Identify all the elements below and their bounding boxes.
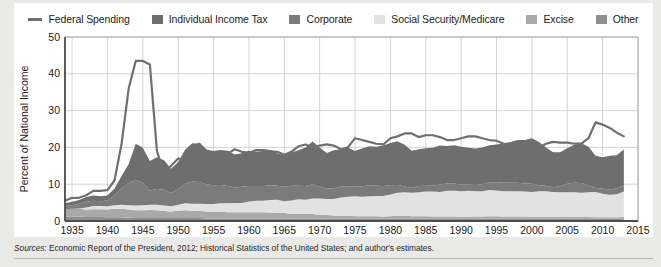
x-tick-label-1965: 1965 — [273, 224, 297, 234]
x-tick-label-2010: 2010 — [591, 224, 615, 234]
legend-label-corporate: Corporate — [306, 13, 352, 25]
x-tick-label-1945: 1945 — [131, 224, 155, 234]
x-tick-label-2015: 2015 — [626, 224, 650, 234]
x-tick-label-1970: 1970 — [308, 224, 332, 234]
x-tick-label-1990: 1990 — [449, 224, 473, 234]
source-label: Sources: — [14, 243, 47, 253]
y-tick-label-50: 50 — [48, 31, 60, 43]
y-tick-label-20: 20 — [48, 141, 60, 153]
x-tick-label-2005: 2005 — [556, 224, 580, 234]
legend-label-excise: Excise — [543, 13, 573, 25]
source-divider — [14, 258, 653, 259]
x-tick-label-1980: 1980 — [379, 224, 403, 234]
y-tick-label-30: 30 — [48, 104, 60, 116]
legend-item-individual-income-tax[interactable]: Individual Income Tax — [152, 13, 268, 25]
legend-item-other[interactable]: Other — [596, 13, 639, 25]
legend-label-social-security-medicare: Social Security/Medicare — [391, 13, 504, 25]
legend-label-individual-income-tax: Individual Income Tax — [169, 13, 268, 25]
legend-label-other: Other — [613, 13, 639, 25]
y-axis-title: Percent of National Income — [18, 66, 30, 193]
x-tick-label-1935: 1935 — [60, 224, 84, 234]
legend-item-corporate[interactable]: Corporate — [289, 13, 352, 25]
y-tick-label-0: 0 — [54, 215, 60, 227]
legend-swatch-other — [596, 15, 607, 24]
x-tick-label-1960: 1960 — [237, 224, 261, 234]
source-text: Economic Report of the President, 2012; … — [47, 243, 434, 253]
legend-swatch-individual-income-tax — [152, 15, 163, 24]
legend-item-excise[interactable]: Excise — [526, 13, 573, 25]
legend-item-federal-spending[interactable]: Federal Spending — [28, 13, 129, 25]
x-tick-label-2000: 2000 — [520, 224, 544, 234]
x-tick-label-1955: 1955 — [202, 224, 226, 234]
legend-swatch-corporate — [289, 15, 300, 24]
x-tick-label-1950: 1950 — [167, 224, 191, 234]
source-note: Sources: Economic Report of the Presiden… — [14, 243, 653, 253]
legend-label-federal-spending: Federal Spending — [48, 13, 129, 25]
legend-swatch-excise — [526, 15, 537, 24]
legend-item-social-security-medicare[interactable]: Social Security/Medicare — [374, 13, 504, 25]
legend-line-marker-federal-spending — [28, 18, 42, 21]
x-tick-label-1995: 1995 — [485, 224, 509, 234]
x-tick-label-1940: 1940 — [96, 224, 120, 234]
y-tick-label-40: 40 — [48, 67, 60, 79]
chart-plot-container: 0102030405019351940194519501955196019651… — [14, 29, 653, 234]
legend-swatch-social-security-medicare — [374, 15, 385, 24]
x-tick-label-1985: 1985 — [414, 224, 438, 234]
stacked-area-chart: 0102030405019351940194519501955196019651… — [14, 29, 653, 234]
figure-screenshot: Federal SpendingIndividual Income TaxCor… — [0, 0, 661, 267]
x-tick-label-1975: 1975 — [343, 224, 367, 234]
chart-card: Federal SpendingIndividual Income TaxCor… — [14, 3, 653, 237]
chart-legend: Federal SpendingIndividual Income TaxCor… — [14, 9, 653, 29]
y-tick-label-10: 10 — [48, 178, 60, 190]
